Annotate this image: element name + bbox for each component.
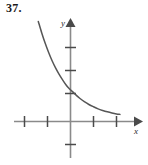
y-axis-arrow-icon xyxy=(66,18,76,27)
figure-container: 37. y x xyxy=(0,0,148,165)
y-axis-label: y xyxy=(60,18,65,28)
exponential-curve xyxy=(38,21,120,114)
x-axis-arrow-icon xyxy=(134,117,143,127)
coordinate-plot: y x xyxy=(0,0,148,165)
x-axis-label: x xyxy=(133,126,138,136)
